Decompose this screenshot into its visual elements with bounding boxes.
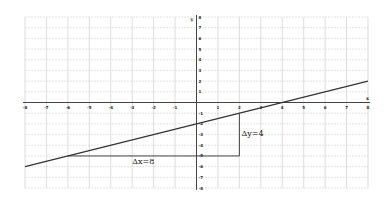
y-tick-label: 3	[199, 68, 202, 73]
delta-y-label: Δy=4	[241, 129, 263, 138]
x-tick-label: -3	[130, 105, 135, 110]
x-tick-label: -8	[23, 105, 28, 110]
x-tick-label: 2	[238, 105, 241, 110]
x-tick-label: -2	[151, 105, 156, 110]
x-tick-label: 7	[345, 105, 348, 110]
y-tick-label: 2	[199, 79, 202, 84]
x-tick-label: 5	[302, 105, 305, 110]
delta-x-label: Δx=8	[132, 157, 154, 166]
x-tick-label: -4	[109, 105, 114, 110]
x-tick-label: -5	[87, 105, 92, 110]
y-tick-label: 1	[199, 89, 202, 94]
x-tick-label: -6	[66, 105, 71, 110]
x-axis-label: x	[366, 95, 370, 101]
y-tick-label: -8	[199, 186, 204, 191]
y-tick-label: -3	[199, 132, 204, 137]
y-tick-label: -1	[199, 111, 204, 116]
axes	[23, 15, 370, 190]
y-tick-label: -6	[199, 164, 204, 169]
y-tick-label: -7	[199, 175, 204, 180]
x-tick-label: -7	[44, 105, 49, 110]
x-tick-label: 8	[367, 105, 370, 110]
y-tick-label: 5	[199, 47, 202, 52]
x-tick-label: 1	[217, 105, 220, 110]
y-tick-label: -4	[199, 143, 204, 148]
coordinate-plane-chart: -8-7-6-5-4-3-2-11234567887654321-1-2-3-4…	[0, 0, 386, 200]
x-tick-label: -1	[173, 105, 178, 110]
y-tick-label: 6	[199, 36, 202, 41]
y-tick-label: 8	[199, 15, 202, 20]
y-tick-label: 4	[199, 57, 202, 62]
x-tick-label: 6	[324, 105, 327, 110]
x-tick-label: 4	[281, 105, 284, 110]
y-tick-label: 7	[199, 25, 202, 30]
